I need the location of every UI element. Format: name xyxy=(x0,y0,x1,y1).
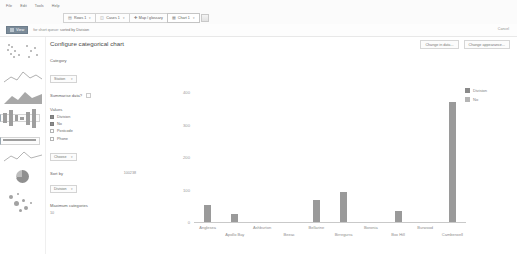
bar[interactable] xyxy=(313,200,320,222)
x-axis-tick-label: Camberwell xyxy=(442,232,463,237)
values-group: Values Division No Postcode Phone Choose… xyxy=(50,107,165,162)
map-icon: ✚ xyxy=(134,16,137,20)
configure-panel: Configure categorical chart Category Sta… xyxy=(50,40,165,245)
area-chart-thumb[interactable] xyxy=(4,68,42,85)
legend-label: No xyxy=(473,97,478,102)
values-option-label: Phone xyxy=(57,137,68,141)
bar-chart-thumb[interactable] xyxy=(0,114,40,122)
checkbox-icon[interactable] xyxy=(50,115,54,119)
toolbar-button-map-label: Map / glossary xyxy=(139,16,163,20)
sort-select-value: Division xyxy=(54,187,67,191)
menu-item-edit[interactable]: Edit xyxy=(19,3,28,9)
chart-actions: Change in data... Change appearance... xyxy=(420,40,510,49)
values-option-label: Division xyxy=(57,115,70,119)
bar[interactable] xyxy=(395,211,402,222)
toolbar-button-chart-label: Chart 1 xyxy=(178,16,190,20)
sort-value-readout: 100238 xyxy=(124,171,136,175)
pie-chart-thumb[interactable] xyxy=(4,168,42,186)
filter-prefix: for short queue: xyxy=(33,28,59,32)
change-appearance-button[interactable]: Change appearance... xyxy=(464,40,511,49)
view-chip-label: View xyxy=(16,28,24,32)
bar[interactable] xyxy=(204,205,211,222)
bubble-chart-thumb[interactable] xyxy=(4,191,42,219)
category-label: Category xyxy=(50,58,165,63)
values-option-postcode[interactable]: Postcode xyxy=(50,129,165,133)
change-data-button[interactable]: Change in data... xyxy=(420,40,458,49)
bar[interactable] xyxy=(340,192,347,222)
menu-item-tools[interactable]: Tools xyxy=(34,3,45,9)
view-chip-button[interactable]: View xyxy=(6,26,28,34)
category-group: Category Station ▾ xyxy=(50,58,165,84)
menu-item-file[interactable]: File xyxy=(5,3,13,9)
values-more-select[interactable]: Choose ▾ xyxy=(50,153,77,161)
panel-toggle-icon[interactable] xyxy=(201,14,209,22)
x-axis-tick-label: Box Hill xyxy=(391,232,405,237)
x-axis-tick-label: Birregurra xyxy=(335,232,353,237)
mountain-chart-thumb[interactable] xyxy=(4,90,42,104)
toolbar-button-rows[interactable]: ▤ Rows 1 ▾ xyxy=(63,13,96,23)
toolbar-button-rows-label: Rows 1 xyxy=(74,16,86,20)
sort-select[interactable]: Division ▾ xyxy=(50,185,77,193)
category-select[interactable]: Station ▾ xyxy=(50,75,77,83)
chart-icon: ▦ xyxy=(172,16,176,20)
pie-icon xyxy=(16,170,29,183)
bar-series-division xyxy=(194,92,466,222)
values-option-no[interactable]: No xyxy=(50,122,165,126)
sort-group: Sort by 100238 Division ▾ xyxy=(50,171,165,194)
checkbox-icon[interactable] xyxy=(50,129,54,133)
view-filter-bar: View for short queue: sorted by Division xyxy=(0,24,517,37)
cancel-link[interactable]: Cancel xyxy=(498,27,509,31)
max-categories-label: Maximum categories xyxy=(50,203,165,208)
chevron-down-icon: ▾ xyxy=(89,16,91,20)
values-option-label: No xyxy=(57,122,62,126)
x-axis-tick-label: Ashburton xyxy=(253,225,271,230)
max-categories-group: Maximum categories 10 xyxy=(50,203,165,215)
horizontal-bar-chart-thumb[interactable] xyxy=(0,137,40,145)
toolbar-button-cases[interactable]: ◫ Cases 1 ▾ xyxy=(95,13,130,23)
line-chart-thumb[interactable] xyxy=(4,150,42,163)
bar[interactable] xyxy=(231,214,238,222)
values-option-phone[interactable]: Phone xyxy=(50,137,165,141)
legend-label: Division xyxy=(473,88,487,93)
chevron-down-icon: ▾ xyxy=(71,155,73,159)
category-select-value: Station xyxy=(54,77,65,81)
values-label: Values xyxy=(50,107,165,112)
y-axis-tick: 300 xyxy=(183,122,190,127)
values-more-label: Choose xyxy=(54,155,66,159)
checkbox-icon[interactable] xyxy=(50,137,54,141)
chevron-down-icon: ▾ xyxy=(123,16,125,20)
summarise-checkbox[interactable] xyxy=(86,93,91,98)
summarise-group: Summarise data? xyxy=(50,93,165,98)
chevron-down-icon: ▾ xyxy=(193,16,195,20)
menu-item-help[interactable]: Help xyxy=(51,3,61,9)
summarise-label: Summarise data? xyxy=(50,93,82,98)
max-categories-value[interactable]: 10 xyxy=(50,211,165,215)
chevron-down-icon: ▾ xyxy=(71,77,73,81)
legend-swatch xyxy=(465,97,470,102)
toolbar-button-chart[interactable]: ▦ Chart 1 ▾ xyxy=(167,13,200,23)
checkbox-icon[interactable] xyxy=(50,122,54,126)
filter-value: sorted by Division xyxy=(60,28,89,32)
view-grid-icon xyxy=(10,28,14,32)
legend-item[interactable]: Division xyxy=(465,88,509,93)
legend-swatch xyxy=(465,88,470,93)
sort-label: Sort by xyxy=(50,171,63,176)
values-option-label: Postcode xyxy=(57,129,73,133)
scatter-chart-thumb[interactable] xyxy=(4,41,42,63)
x-axis-tick-label: Apollo Bay xyxy=(225,232,244,237)
y-axis-tick: 0 xyxy=(188,220,190,225)
toolbar-button-map[interactable]: ✚ Map / glossary xyxy=(129,13,168,23)
page-title: Configure categorical chart xyxy=(50,40,165,47)
x-axis-line xyxy=(194,222,466,223)
rows-icon: ▤ xyxy=(68,16,72,20)
legend-item[interactable]: No xyxy=(465,97,509,102)
x-axis-labels: AngleseaApollo BayAshburtonBeeacBellarin… xyxy=(194,224,474,246)
toolbar: ▤ Rows 1 ▾ ◫ Cases 1 ▾ ✚ Map / glossary … xyxy=(0,12,517,24)
y-axis-tick: 100 xyxy=(183,187,190,192)
values-option-division[interactable]: Division xyxy=(50,115,165,119)
plot-area xyxy=(194,92,466,222)
filter-description: for short queue: sorted by Division xyxy=(33,28,89,32)
x-axis-tick-label: Burwood xyxy=(417,225,433,230)
chevron-down-icon: ▾ xyxy=(71,187,73,191)
bar[interactable] xyxy=(449,102,456,222)
